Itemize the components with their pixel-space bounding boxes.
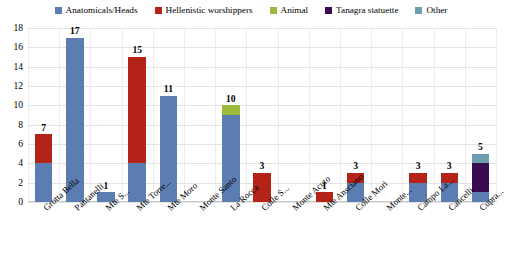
plot-area-wrapper: 024681012141618 7171151110313335 <box>28 28 496 202</box>
bar-value-label: 3 <box>447 161 452 171</box>
y-axis-tick-label: 2 <box>18 178 23 188</box>
bar-slot <box>371 28 402 202</box>
x-label-slot: Mte S... <box>90 204 121 266</box>
bar-slot <box>278 28 309 202</box>
legend-item[interactable]: Tanagra statuette <box>325 6 398 15</box>
bar-value-label: 11 <box>164 84 173 94</box>
gridline-vertical <box>496 28 497 202</box>
bar-segment[interactable] <box>472 163 489 192</box>
bar-slot: 5 <box>465 28 496 202</box>
x-label-slot: Mte Moro <box>153 204 184 266</box>
x-label-slot: Cancelli <box>434 204 465 266</box>
bar-value-label: 10 <box>226 94 236 104</box>
x-label-slot: La Rocca <box>215 204 246 266</box>
y-axis-tick-label: 10 <box>13 101 23 111</box>
bar-value-label: 3 <box>416 161 421 171</box>
x-label-slot: Mte Torre... <box>122 204 153 266</box>
y-axis-tick-label: 0 <box>18 197 23 207</box>
legend-label: Animal <box>281 6 309 15</box>
bar-slot: 3 <box>246 28 277 202</box>
bar-value-label: 3 <box>260 161 265 171</box>
legend-item[interactable]: Animal <box>270 6 309 15</box>
bar-segment[interactable] <box>222 105 239 115</box>
plot-area: 024681012141618 7171151110313335 <box>28 28 496 202</box>
y-axis-tick-label: 12 <box>13 81 23 91</box>
bar-segment[interactable] <box>409 173 426 183</box>
x-axis-labels: Grotta BellaPantanelliMte S...Mte Torre.… <box>28 204 496 266</box>
legend-item[interactable]: Other <box>415 6 447 15</box>
bar-value-label: 17 <box>70 26 80 36</box>
legend-swatch-icon <box>270 7 277 14</box>
y-axis-tick-label: 18 <box>13 23 23 33</box>
chart-legend: Anatomicals/HeadsHellenistic worshippers… <box>0 6 502 15</box>
x-label-slot: Mte Ansciano <box>309 204 340 266</box>
x-label-slot: Monte Acuto <box>278 204 309 266</box>
bar-slot: 15 <box>122 28 153 202</box>
legend-item[interactable]: Anatomicals/Heads <box>55 6 138 15</box>
legend-label: Hellenistic worshippers <box>166 6 253 15</box>
bar-segment[interactable] <box>128 57 145 163</box>
bar-stack[interactable]: 7 <box>35 134 52 202</box>
legend-item[interactable]: Hellenistic worshippers <box>155 6 253 15</box>
bar-slot <box>184 28 215 202</box>
bar-slot: 11 <box>153 28 184 202</box>
y-axis-tick-label: 8 <box>18 120 23 130</box>
bar-slot: 3 <box>402 28 433 202</box>
bar-stack[interactable]: 5 <box>472 154 489 202</box>
legend-label: Tanagra statuette <box>336 6 398 15</box>
bar-value-label: 15 <box>132 45 142 55</box>
bar-series-container: 7171151110313335 <box>28 28 496 202</box>
bar-segment[interactable] <box>472 154 489 164</box>
y-axis-tick-label: 6 <box>18 139 23 149</box>
x-label-slot: Colle Mori <box>340 204 371 266</box>
bar-slot: 7 <box>28 28 59 202</box>
y-axis-tick-label: 16 <box>13 43 23 53</box>
x-label-slot: Campo La... <box>402 204 433 266</box>
bar-slot: 1 <box>90 28 121 202</box>
legend-swatch-icon <box>155 7 162 14</box>
legend-label: Other <box>426 6 447 15</box>
bar-value-label: 3 <box>353 161 358 171</box>
x-label-slot: Pantanelli <box>59 204 90 266</box>
x-label-slot: Cupra... <box>465 204 496 266</box>
legend-label: Anatomicals/Heads <box>66 6 138 15</box>
y-axis-tick-label: 14 <box>13 62 23 72</box>
legend-swatch-icon <box>415 7 422 14</box>
bar-value-label: 5 <box>478 142 483 152</box>
x-label-slot: Colle S... <box>246 204 277 266</box>
y-axis-tick-label: 4 <box>18 159 23 169</box>
bar-stack[interactable]: 15 <box>128 57 145 202</box>
x-label-slot: Grotta Bella <box>28 204 59 266</box>
bar-value-label: 7 <box>41 123 46 133</box>
bar-segment[interactable] <box>35 134 52 163</box>
legend-swatch-icon <box>55 7 62 14</box>
x-label-slot: Monte... <box>371 204 402 266</box>
x-label-slot: Monte Santo <box>184 204 215 266</box>
legend-swatch-icon <box>325 7 332 14</box>
